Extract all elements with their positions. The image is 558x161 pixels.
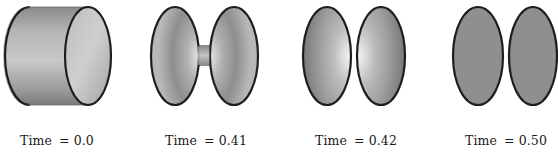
- caption-prefix: Time: [20, 133, 52, 148]
- caption-value: = 0.41: [204, 133, 247, 148]
- panel-necked-bridge: [151, 7, 258, 105]
- caption-value: = 0.42: [354, 133, 397, 148]
- right-disc: [210, 7, 258, 105]
- caption-time-042: Time= 0.42: [315, 133, 397, 148]
- caption-prefix: Time: [315, 133, 347, 148]
- figure: Time= 0.0 Time= 0.41 Time= 0.42 Time= 0.…: [0, 0, 558, 161]
- caption-value: = 0.50: [504, 133, 547, 148]
- caption-value: = 0.0: [59, 133, 94, 148]
- cylinder-front-cap: [65, 7, 111, 105]
- left-disc: [453, 7, 503, 105]
- caption-prefix: Time: [165, 133, 197, 148]
- right-disc: [357, 7, 405, 105]
- caption-time-0: Time= 0.0: [20, 133, 94, 148]
- panel-flat-discs: [453, 7, 557, 105]
- panel-cylinder: [3, 7, 111, 105]
- caption-time-041: Time= 0.41: [165, 133, 247, 148]
- panel-pinched-cones: [303, 7, 405, 105]
- right-disc: [509, 7, 557, 105]
- caption-time-050: Time= 0.50: [465, 133, 547, 148]
- left-disc: [151, 7, 199, 105]
- left-disc: [303, 7, 351, 105]
- caption-prefix: Time: [465, 133, 497, 148]
